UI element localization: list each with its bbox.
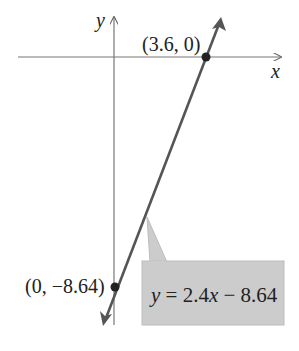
graph-canvas: x y y = 2.4x − 8.64 (3.6, 0) (0, −8.64) xyxy=(0,0,299,351)
equation-callout: y = 2.4x − 8.64 xyxy=(142,217,284,325)
arrow-down-icon xyxy=(100,311,112,326)
x-axis-label: x xyxy=(270,60,280,82)
y-intercept-point xyxy=(111,283,120,292)
arrow-up-icon xyxy=(212,17,226,31)
x-intercept-label: (3.6, 0) xyxy=(142,33,200,56)
y-axis-label: y xyxy=(94,9,105,32)
x-intercept-point xyxy=(202,53,211,62)
y-intercept-label: (0, −8.64) xyxy=(25,275,105,298)
equation-label: y = 2.4x − 8.64 xyxy=(149,283,278,307)
